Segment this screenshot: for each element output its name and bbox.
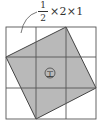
fraction: 1 2 (38, 0, 48, 23)
fraction-numerator: 1 (38, 0, 48, 10)
leader-line (21, 12, 37, 33)
area-annotation: 1 2 ×2×1 (38, 0, 100, 24)
fraction-bar (38, 11, 48, 12)
fraction-denominator: 2 (38, 13, 48, 23)
expression-rest: ×2×1 (50, 5, 84, 18)
center-label: エ (46, 70, 54, 79)
